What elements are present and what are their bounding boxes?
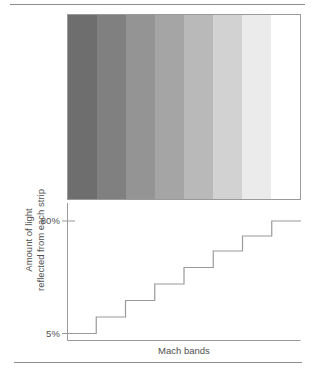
y-axis-title: Amount of light reflected from each stri… (23, 175, 47, 305)
mach-bands-figure: 80% 5% Amount of light reflected from ea… (0, 0, 315, 376)
step-line (67, 221, 301, 334)
y-axis-title-line2: reflected from each strip (35, 175, 47, 305)
y-tick-label-low: 5% (20, 328, 60, 339)
band-7 (242, 15, 271, 199)
y-axis-title-line1: Amount of light (23, 175, 35, 305)
band-3 (126, 15, 155, 199)
bottom-divider (14, 362, 302, 363)
band-6 (213, 15, 242, 199)
band-5 (184, 15, 213, 199)
band-2 (97, 15, 126, 199)
step-plot (67, 203, 301, 341)
top-divider (10, 4, 305, 5)
mach-bands-strip (67, 14, 301, 200)
x-axis-title: Mach bands (67, 345, 301, 356)
band-1 (68, 15, 97, 199)
band-8 (271, 15, 300, 199)
step-plot-svg (67, 203, 301, 341)
band-4 (155, 15, 184, 199)
